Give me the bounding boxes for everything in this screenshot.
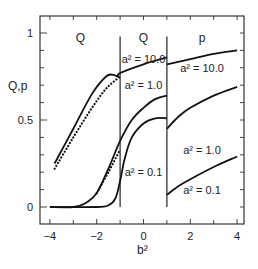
series-line bbox=[50, 96, 167, 208]
x-tick-label: −4 bbox=[44, 230, 57, 242]
curve-annotation: a² = 1.0 bbox=[125, 79, 163, 91]
y-axis-label: Q,p bbox=[8, 79, 28, 93]
region-label: p bbox=[199, 31, 206, 45]
curve-annotation: a² = 1.0 bbox=[183, 144, 221, 156]
y-tick-label: 0.5 bbox=[18, 114, 33, 126]
y-tick-label: 0 bbox=[27, 201, 33, 213]
y-tick-label: 1 bbox=[27, 27, 33, 39]
curve-annotation: a² = 10.0 bbox=[122, 53, 166, 65]
x-tick-label: 0 bbox=[140, 230, 146, 242]
region-label: Q bbox=[139, 31, 148, 45]
x-tick-label: 2 bbox=[187, 230, 193, 242]
curve-annotation: a² = 10.0 bbox=[180, 62, 224, 74]
series-line bbox=[167, 87, 237, 129]
series-line bbox=[97, 150, 120, 194]
series-line bbox=[55, 77, 121, 169]
chart: QQpa² = 10.0a² = 1.0a² = 0.1a² = 10.0a² … bbox=[0, 0, 258, 269]
x-axis-label: b² bbox=[137, 243, 148, 257]
curve-annotation: a² = 0.1 bbox=[183, 184, 221, 196]
series-line bbox=[55, 57, 167, 163]
curve-annotation: a² = 0.1 bbox=[125, 166, 163, 178]
series-line bbox=[50, 118, 167, 207]
x-tick-label: −2 bbox=[90, 230, 103, 242]
x-tick-label: 4 bbox=[234, 230, 240, 242]
region-label: Q bbox=[76, 31, 85, 45]
